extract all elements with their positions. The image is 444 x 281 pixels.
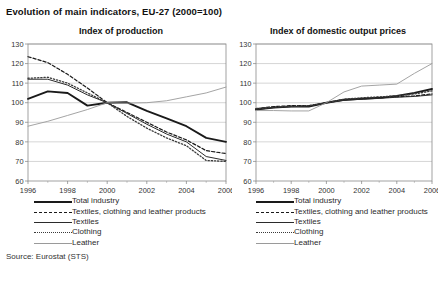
legend-swatch-icon	[252, 196, 294, 206]
series-line-textiles	[256, 95, 432, 110]
y-tick-label: 90	[15, 118, 23, 127]
x-tick-label: 2000	[99, 186, 115, 195]
legend-swatch-icon	[252, 217, 294, 227]
y-tick-label: 120	[11, 59, 23, 68]
legend-swatch-icon	[30, 238, 72, 248]
plot-area-production: 6070809010011012013019961998200020022004…	[4, 38, 232, 203]
x-tick-label: 2004	[178, 186, 194, 195]
y-tick-label: 70	[243, 157, 251, 166]
chart-panel-index-of-production: Index of production 60708090100110120130…	[4, 24, 232, 209]
x-tick-label: 2002	[139, 186, 155, 195]
y-tick-label: 110	[12, 79, 24, 88]
y-tick-label: 90	[243, 118, 251, 127]
x-tick-label: 2006	[218, 186, 232, 195]
legend-swatch-icon	[30, 227, 72, 237]
legend-item[interactable]: Textiles, clothing and leather products	[252, 206, 444, 216]
legend-label: Leather	[72, 238, 99, 248]
x-tick-label: 2006	[424, 186, 438, 195]
y-tick-label: 60	[243, 177, 251, 186]
legend-item[interactable]: Clothing	[30, 227, 250, 237]
y-tick-label: 60	[15, 177, 23, 186]
x-tick-label: 1996	[20, 186, 36, 195]
y-tick-label: 80	[243, 138, 251, 147]
y-tick-label: 120	[239, 59, 251, 68]
x-tick-label: 1998	[283, 186, 299, 195]
legend-label: Clothing	[294, 227, 323, 237]
x-tick-label: 2000	[318, 186, 334, 195]
legend-label: Total industry	[294, 196, 341, 206]
legend-item[interactable]: Textiles	[30, 217, 250, 227]
series-line-textiles-clothing-and-leather-products	[28, 57, 226, 154]
legend-item[interactable]: Total industry	[30, 196, 250, 206]
legend-item[interactable]: Leather	[252, 238, 444, 248]
page-title: Evolution of main indicators, EU-27 (200…	[6, 6, 222, 17]
legend-swatch-icon	[252, 227, 294, 237]
legend-swatch-icon	[252, 207, 294, 217]
legend-item[interactable]: Total industry	[252, 196, 444, 206]
legend-item[interactable]: Textiles, clothing and leather products	[30, 206, 250, 216]
plot-area-prices: 6070809010011012013019961998200020022004…	[232, 38, 442, 203]
legend-swatch-icon	[30, 217, 72, 227]
legend-item[interactable]: Clothing	[252, 227, 444, 237]
source-note: Source: Eurostat (STS)	[6, 252, 89, 261]
legend-label: Clothing	[72, 227, 101, 237]
y-tick-label: 110	[240, 79, 252, 88]
legend-production: Total industryTextiles, clothing and lea…	[30, 196, 250, 248]
y-tick-label: 130	[239, 40, 251, 49]
legend-item[interactable]: Textiles	[252, 217, 444, 227]
y-tick-label: 130	[11, 40, 23, 49]
legend-label: Total industry	[72, 196, 119, 206]
series-line-leather	[256, 64, 432, 111]
legend-swatch-icon	[30, 207, 72, 217]
chart-svg-prices: 6070809010011012013019961998200020022004…	[232, 38, 438, 203]
chart-title-production: Index of production	[4, 24, 232, 38]
legend-swatch-icon	[30, 196, 72, 206]
chart-svg-production: 6070809010011012013019961998200020022004…	[4, 38, 232, 203]
x-tick-label: 1996	[248, 186, 264, 195]
x-tick-label: 1998	[59, 186, 75, 195]
legend-item[interactable]: Leather	[30, 238, 250, 248]
legend-prices: Total industryTextiles, clothing and lea…	[252, 196, 444, 248]
y-tick-label: 70	[15, 157, 23, 166]
chart-title-prices: Index of domestic output prices	[232, 24, 442, 38]
legend-swatch-icon	[252, 238, 294, 248]
chart-panel-index-of-domestic-output-prices: Index of domestic output prices 60708090…	[232, 24, 442, 209]
y-tick-label: 80	[15, 138, 23, 147]
legend-label: Leather	[294, 238, 321, 248]
x-tick-label: 2004	[389, 186, 405, 195]
legend-label: Textiles	[72, 217, 99, 227]
legend-label: Textiles, clothing and leather products	[294, 207, 428, 217]
y-tick-label: 100	[239, 98, 251, 107]
legend-label: Textiles, clothing and leather products	[72, 207, 206, 217]
x-tick-label: 2002	[353, 186, 369, 195]
y-tick-label: 100	[11, 98, 23, 107]
legend-label: Textiles	[294, 217, 321, 227]
